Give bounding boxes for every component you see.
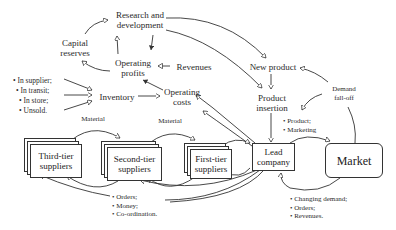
inventory-item: • In transit; [13,86,61,96]
material-label-2: Material [155,117,185,126]
product-marketing-item: • Marketing [283,126,327,135]
orders-money-item: • Co-ordination. [112,210,172,219]
node-product-insertion: Product insertion [250,93,294,113]
insertion-label-line1: Product [250,93,294,103]
profits-label-line1: Operating [110,58,156,68]
market-feedback-list: • Changing demand; • Orders; • Revenues. [290,195,360,221]
capital-label-line2: reserves [55,48,95,58]
node-operating-costs: Operating costs [160,87,204,107]
costs-label-line1: Operating [160,87,204,97]
orders-money-list: • Orders; • Money; • Co-ordination. [112,193,172,219]
node-demand-fall-off: Demand fall-off [326,85,362,102]
first-tier-label-line1: First-tier [195,154,228,164]
inventory-list: • In supplier; • In transit; • In store;… [13,76,61,116]
lead-label-line1: Lead [257,147,290,157]
node-capital-reserves: Capital reserves [55,38,95,58]
market-label: Market [337,156,372,166]
demand-label-line2: fall-off [326,94,362,103]
demand-label-line1: Demand [326,85,362,94]
lead-label-line2: company [257,157,290,167]
research-label-line2: development [110,20,170,30]
node-operating-profits: Operating profits [110,58,156,78]
insertion-label-line2: insertion [250,103,294,113]
node-revenues: Revenues [172,62,216,72]
inventory-item: • Unsold. [13,106,61,116]
orders-money-item: • Orders; [112,193,172,202]
capital-label-line1: Capital [55,38,95,48]
profits-label-line2: profits [110,68,156,78]
material-label-1: Material [78,115,108,124]
node-research-development: Research and development [110,10,170,30]
market-box: Market [325,143,383,178]
orders-money-item: • Money; [112,202,172,211]
node-new-product: New product [247,62,299,72]
product-marketing-list: • Product; • Marketing [283,117,327,134]
second-tier-label-line1: Second-tier [114,154,155,164]
research-label-line1: Research and [110,10,170,20]
market-feedback-item: • Revenues. [290,212,360,221]
first-tier-suppliers-box: First-tiersuppliers [190,149,232,179]
second-tier-suppliers-box: Second-tiersuppliers [107,147,162,181]
market-feedback-item: • Changing demand; [290,195,360,204]
inventory-item: • In store; [13,96,61,106]
market-feedback-item: • Orders; [290,204,360,213]
first-tier-label-line2: suppliers [195,164,228,174]
costs-label-line2: costs [160,97,204,107]
product-marketing-item: • Product; [283,117,327,126]
second-tier-label-line2: suppliers [114,164,155,174]
lead-company-box: Leadcompany [252,143,295,171]
inventory-item: • In supplier; [13,76,61,86]
third-tier-label-line1: Third-tier [39,151,74,161]
node-inventory: Inventory [97,92,137,102]
third-tier-label-line2: suppliers [39,161,74,171]
third-tier-suppliers-box: Third-tiersuppliers [30,144,82,178]
